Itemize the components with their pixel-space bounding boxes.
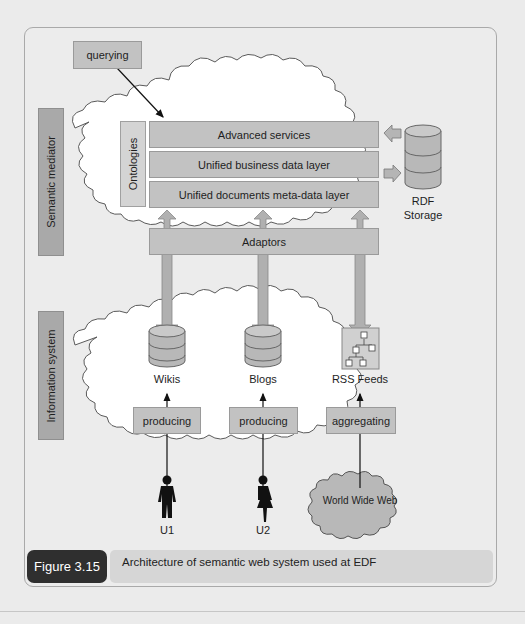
layer-label: Advanced services [218, 129, 310, 141]
rdf-storage-label: RDF Storage [403, 194, 443, 222]
actor-u1-label: U1 [152, 524, 182, 536]
ontologies-box: Ontologies [120, 121, 146, 207]
information-system-label-box: Information system [38, 311, 64, 440]
aggregating-box-rss: aggregating [326, 407, 396, 434]
figure-number-tag: Figure 3.15 [27, 550, 107, 583]
adaptors-box: Adaptors [149, 228, 379, 255]
world-wide-web-label: World Wide Web [315, 495, 405, 506]
unified-business-data-layer: Unified business data layer [149, 151, 379, 178]
information-system-label: Information system [45, 329, 57, 422]
advanced-services-layer: Advanced services [149, 121, 379, 148]
querying-label: querying [86, 49, 128, 61]
user-female-icon [257, 476, 273, 523]
semantic-mediator-label-box: Semantic mediator [38, 108, 64, 256]
unified-documents-metadata-layer: Unified documents meta-data layer [149, 181, 379, 208]
actor-u2-label: U2 [248, 524, 278, 536]
ontologies-label: Ontologies [127, 138, 139, 191]
rdf-storage-database-icon [405, 125, 441, 189]
layer-label: Unified documents meta-data layer [179, 189, 350, 201]
rdf-arrows [384, 125, 401, 182]
source-name-wikis: Wikis [137, 373, 197, 385]
action-label: aggregating [332, 415, 390, 427]
rss-feeds-tree-icon [342, 328, 379, 369]
producing-box-wikis: producing [133, 407, 201, 434]
semantic-mediator-label: Semantic mediator [45, 136, 57, 228]
querying-box: querying [73, 41, 142, 69]
producing-box-blogs: producing [229, 407, 298, 434]
information-system-cloud [73, 285, 361, 439]
rdf-label-line2: Storage [403, 208, 443, 222]
arrow-right-icon [384, 165, 401, 182]
source-name-rss-feeds: RSS Feeds [325, 373, 395, 385]
wikis-database-icon [149, 325, 185, 367]
arrow-left-icon [384, 125, 401, 142]
adaptors-label: Adaptors [242, 236, 286, 248]
layer-label: Unified business data layer [198, 159, 330, 171]
blogs-database-icon [245, 325, 281, 367]
action-label: producing [143, 415, 191, 427]
action-label: producing [239, 415, 287, 427]
rdf-label-line1: RDF [403, 194, 443, 208]
figure-caption: Architecture of semantic web system used… [110, 550, 493, 583]
user-male-icon [158, 476, 176, 519]
source-name-blogs: Blogs [233, 373, 293, 385]
